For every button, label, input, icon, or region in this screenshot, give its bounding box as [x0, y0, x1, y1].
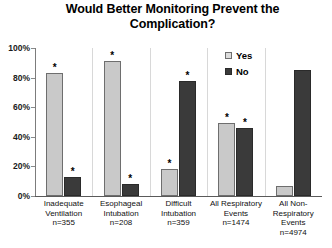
bar-no	[64, 177, 81, 196]
category-label-name: All Respiratory Events	[207, 199, 264, 218]
y-axis-tick-label: 20%	[13, 161, 30, 171]
category-label-name: Esophageal Intubation	[92, 199, 149, 218]
y-axis-tick-label: 100%	[8, 43, 30, 53]
category-label-name: Difficult Intubation	[150, 199, 207, 218]
significance-asterisk: *	[225, 114, 229, 121]
chart-legend: YesNo	[225, 50, 285, 82]
category-label-count: n=1474	[207, 218, 264, 228]
y-axis-tick-mark	[31, 196, 35, 197]
bar-yes	[104, 61, 121, 196]
bar-chart: Would Better Monitoring Prevent the Comp…	[0, 0, 332, 248]
category-label-count: n=359	[150, 218, 207, 228]
bar-no	[179, 81, 196, 196]
light-gray-swatch	[225, 52, 232, 59]
bar-no	[236, 128, 253, 196]
chart-title-line-2: Complication?	[130, 17, 216, 31]
category-divider	[207, 48, 208, 196]
y-axis-tick-label: 0%	[18, 191, 30, 201]
legend-item-label: Yes	[236, 50, 252, 61]
significance-asterisk: *	[243, 119, 247, 126]
y-axis-tick-mark	[31, 137, 35, 138]
category-label-count: n=355	[35, 218, 92, 228]
y-axis-tick-mark	[31, 107, 35, 108]
bar-yes	[46, 73, 63, 196]
category-divider	[92, 48, 93, 196]
category-label-count: n=208	[92, 218, 149, 228]
x-axis-line	[35, 196, 322, 197]
category-divider	[150, 48, 151, 196]
category-label: Difficult Intubationn=359	[150, 199, 207, 228]
y-axis-tick-label: 80%	[13, 73, 30, 83]
category-label: All Respiratory Eventsn=1474	[207, 199, 264, 228]
dark-gray-swatch	[225, 68, 232, 75]
legend-item-label: No	[236, 66, 249, 77]
significance-asterisk: *	[53, 64, 57, 71]
bar-no	[122, 184, 139, 196]
chart-title: Would Better Monitoring Prevent the Comp…	[30, 2, 315, 32]
bar-yes	[218, 123, 235, 196]
significance-asterisk: *	[186, 72, 190, 79]
y-axis-line	[35, 48, 36, 197]
x-axis-category-labels: Inadequate Ventilationn=355Esophageal In…	[35, 199, 322, 248]
category-label: Esophageal Intubationn=208	[92, 199, 149, 228]
category-label: Inadequate Ventilationn=355	[35, 199, 92, 228]
y-axis-tick-mark	[31, 48, 35, 49]
significance-asterisk: *	[168, 160, 172, 167]
bar-yes	[276, 186, 293, 196]
y-axis-tick-label: 60%	[13, 102, 30, 112]
y-axis-tick-mark	[31, 78, 35, 79]
category-label-count: n=4974	[265, 228, 322, 238]
significance-asterisk: *	[71, 168, 75, 175]
significance-asterisk: *	[110, 52, 114, 59]
y-axis-tick-label: 40%	[13, 132, 30, 142]
category-label-name: All Non- Respiratory Events	[265, 199, 322, 228]
bar-no	[294, 70, 311, 196]
bar-yes	[161, 169, 178, 196]
chart-title-line-1: Would Better Monitoring Prevent the	[66, 2, 280, 16]
category-label-name: Inadequate Ventilation	[35, 199, 92, 218]
legend-item: Yes	[225, 50, 285, 61]
legend-item: No	[225, 66, 285, 77]
significance-asterisk: *	[128, 175, 132, 182]
category-label: All Non- Respiratory Eventsn=4974	[265, 199, 322, 237]
y-axis-tick-mark	[31, 166, 35, 167]
